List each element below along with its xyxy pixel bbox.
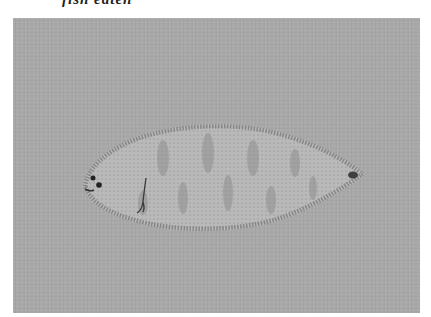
clipped-caption: fish eaten (62, 0, 132, 8)
specimen-photo (13, 18, 420, 313)
eye-lower (96, 182, 102, 188)
fish-illustration (13, 18, 420, 313)
eye-upper (91, 176, 96, 181)
tail-spot (348, 172, 358, 179)
fish-body (73, 113, 373, 243)
